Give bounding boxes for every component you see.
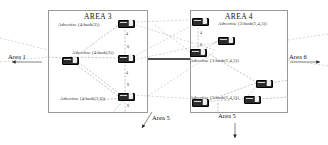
router-cap — [128, 93, 133, 99]
edge-label-area-1: Area 1 — [8, 53, 26, 60]
link-cost: 8 — [127, 103, 129, 108]
link-cost: 8 — [200, 42, 202, 47]
router-node[interactable] — [244, 96, 259, 102]
link-cost: 8 — [127, 44, 129, 49]
link-cost: 4 — [126, 70, 128, 75]
router-slit — [120, 57, 127, 58]
router-node[interactable] — [118, 55, 133, 61]
router-node[interactable] — [190, 49, 205, 55]
network-diagram-canvas: AREA 3 AREA 4 Advertise (4:hash(3)) Adve… — [0, 0, 328, 145]
edge-label-area-5-right: Area 5 — [218, 112, 236, 119]
advertise-label: Advertise (3:hash(1,4,5)) — [190, 58, 239, 63]
router-node[interactable] — [62, 57, 77, 63]
router-cap — [128, 20, 133, 26]
advertise-label: Advertise (4:hash(3,6)) — [60, 96, 105, 101]
advertise-label: Advertise (4:hash(3)) — [58, 22, 100, 27]
router-node[interactable] — [256, 80, 271, 86]
router-cap — [202, 99, 207, 105]
router-slit — [120, 95, 127, 96]
router-node[interactable] — [218, 37, 233, 43]
router-node[interactable] — [192, 99, 207, 105]
router-slit — [192, 51, 199, 52]
router-cap — [228, 37, 233, 43]
router-cap — [200, 49, 205, 55]
router-node[interactable] — [192, 18, 207, 24]
router-cap — [72, 57, 77, 63]
router-slit — [194, 20, 201, 21]
advertise-label: Advertise (3:hash(1,4,5)) — [218, 21, 267, 26]
router-cap — [128, 55, 133, 61]
router-slit — [246, 98, 253, 99]
advertise-label: Advertise (4:hash(3)) — [72, 50, 114, 55]
edge-label-area-6: Area 6 — [289, 53, 307, 60]
router-slit — [194, 101, 201, 102]
router-cap — [266, 80, 271, 86]
router-slit — [220, 39, 227, 40]
router-node[interactable] — [118, 20, 133, 26]
link-cost: 8 — [127, 82, 129, 87]
router-slit — [258, 82, 265, 83]
link-cost: 4 — [200, 30, 202, 35]
link-cost: 4 — [126, 31, 128, 36]
router-slit — [64, 59, 71, 60]
router-slit — [120, 22, 127, 23]
edge-label-area-5-left: Area 5 — [152, 114, 170, 121]
router-cap — [202, 18, 207, 24]
router-node[interactable] — [118, 93, 133, 99]
router-cap — [254, 96, 259, 102]
